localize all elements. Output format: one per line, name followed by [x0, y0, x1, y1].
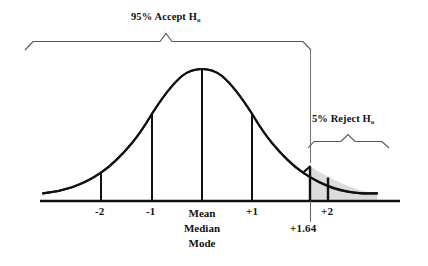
- center-tendency-labels: Mean Median Mode: [172, 206, 232, 252]
- reject-region-brace: [308, 135, 389, 149]
- tick-label-plus1: +1: [246, 206, 258, 218]
- reject-region-label: 5% Reject Ho: [312, 113, 374, 126]
- accept-region-label: 95% Accept Ho: [131, 11, 201, 24]
- normal-distribution-figure: 95% Accept Ho 5% Reject Ho -2 -1 +1 +2 M…: [0, 0, 428, 266]
- center-label-mode: Mode: [172, 236, 232, 251]
- normal-curve: [43, 69, 377, 193]
- center-label-mean: Mean: [172, 206, 232, 221]
- accept-region-brace: [25, 34, 311, 51]
- accept-null-subscript: o: [197, 16, 201, 24]
- tick-label-plus2: +2: [321, 206, 333, 218]
- tick-label-minus1: -1: [146, 206, 156, 218]
- reject-null-subscript: o: [371, 118, 375, 126]
- center-label-median: Median: [172, 221, 232, 236]
- tick-label-minus2: -2: [95, 206, 105, 218]
- normal-curve-outline: [43, 69, 377, 193]
- critical-value-label: +1.64: [290, 223, 317, 235]
